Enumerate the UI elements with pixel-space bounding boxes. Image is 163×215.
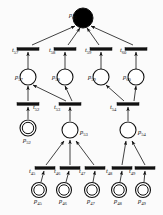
arc-p48-to-t48 — [120, 171, 122, 182]
transition-label-t52: t52 — [33, 104, 39, 113]
transition-label-t53: t53 — [54, 104, 60, 113]
place-inner-circle — [114, 185, 124, 195]
place-inner-circle — [22, 122, 33, 133]
transition-label-index: 45 — [31, 171, 36, 176]
arc-t54-to-p60 — [134, 86, 136, 101]
arc-t59-to-p62 — [87, 28, 99, 45]
place-inner-circle — [59, 185, 69, 195]
place-p45[interactable] — [32, 183, 47, 198]
transition-label-t54: t54 — [110, 104, 116, 113]
arc-p45-to-t45 — [41, 171, 44, 182]
place-label-p46: p46 — [59, 198, 67, 207]
place-p52[interactable] — [20, 120, 36, 136]
place-label-p47: p47 — [87, 198, 95, 207]
arc-t53-to-p58 — [65, 86, 72, 101]
arc-t49-to-p54 — [132, 141, 145, 165]
arc-p49-to-t49 — [144, 171, 145, 182]
transition-t46[interactable] — [60, 167, 80, 170]
place-label-index: 59 — [91, 77, 96, 82]
transition-t57[interactable] — [17, 48, 39, 51]
transition-label-index: 52 — [35, 107, 40, 112]
place-p49[interactable] — [136, 183, 151, 198]
place-inner-circle — [138, 185, 148, 195]
transition-label-t57: t57 — [12, 47, 18, 56]
transition-label-index: 53 — [56, 107, 61, 112]
arc-p47-to-t47 — [93, 171, 95, 182]
place-label-p48: p48 — [114, 198, 122, 207]
place-outer-circle — [62, 122, 78, 138]
place-inner-circle — [87, 185, 97, 195]
transition-label-index: 57 — [14, 50, 19, 55]
place-label-p54: p54 — [138, 129, 146, 138]
transition-t54[interactable] — [117, 103, 139, 106]
place-label-p45: p45 — [34, 198, 42, 207]
place-p53[interactable] — [62, 122, 78, 138]
transition-label-t47: t47 — [79, 168, 85, 177]
transition-label-t45: t45 — [29, 168, 35, 177]
place-label-p52: p52 — [23, 137, 31, 146]
place-p48[interactable] — [112, 183, 127, 198]
transition-t58[interactable] — [54, 48, 76, 51]
place-p46[interactable] — [57, 183, 72, 198]
arc-t47-to-p53 — [76, 141, 94, 165]
petri-net-diagram: p62p57p58p59p60p52p53p54p45p46p47p48p49t… — [0, 0, 163, 215]
transition-label-index: 59 — [87, 50, 92, 55]
transition-label-index: 60 — [122, 50, 127, 55]
transition-t49[interactable] — [135, 167, 155, 170]
place-label-p60: p60 — [123, 74, 131, 83]
place-label-index: 57 — [18, 77, 23, 82]
place-label-p59: p59 — [88, 74, 96, 83]
arc-t53-to-p57 — [33, 85, 66, 101]
transition-label-t60: t60 — [120, 47, 126, 56]
transition-label-t46: t46 — [54, 168, 60, 177]
place-label-p53: p53 — [80, 129, 88, 138]
place-outer-circle — [120, 122, 136, 138]
transition-t45[interactable] — [35, 167, 55, 170]
transition-t47[interactable] — [85, 167, 105, 170]
arc-p46-to-t46 — [66, 171, 69, 182]
transition-label-t58: t58 — [49, 47, 55, 56]
transition-t59[interactable] — [90, 48, 112, 51]
transition-label-index: 49 — [131, 171, 136, 176]
place-label-p62: p62 — [69, 12, 77, 21]
place-label-p57: p57 — [15, 74, 23, 83]
transition-label-index: 47 — [81, 171, 86, 176]
place-p54[interactable] — [120, 122, 136, 138]
place-label-index: 47 — [90, 201, 95, 206]
transition-label-index: 46 — [56, 171, 61, 176]
place-label-index: 52 — [26, 140, 31, 145]
place-label-index: 46 — [62, 201, 67, 206]
place-p47[interactable] — [85, 183, 100, 198]
transition-label-index: 54 — [112, 107, 117, 112]
place-label-index: 62 — [72, 15, 77, 20]
place-label-p58: p58 — [52, 74, 60, 83]
arc-t58-to-p62 — [68, 28, 80, 45]
transition-label-t59: t59 — [85, 47, 91, 56]
place-label-p49: p49 — [138, 198, 146, 207]
transition-label-t48: t48 — [106, 168, 112, 177]
transition-label-index: 48 — [108, 171, 113, 176]
arc-t45-to-p53 — [46, 141, 64, 165]
place-label-index: 54 — [141, 132, 146, 137]
transition-t53[interactable] — [59, 103, 81, 106]
place-label-index: 45 — [37, 201, 42, 206]
place-label-index: 48 — [117, 201, 122, 206]
petri-net-canvas — [0, 0, 163, 215]
place-label-index: 53 — [83, 132, 88, 137]
place-inner-circle — [34, 185, 44, 195]
place-label-index: 49 — [141, 201, 146, 206]
transition-label-t49: t49 — [129, 168, 135, 177]
arc-t48-to-p54 — [122, 141, 126, 165]
arc-t57-to-p62 — [32, 26, 75, 45]
place-label-index: 58 — [55, 77, 60, 82]
transition-t60[interactable] — [125, 48, 147, 51]
transition-label-index: 58 — [51, 50, 56, 55]
arc-t54-to-p59 — [106, 85, 124, 101]
place-label-index: 60 — [126, 77, 131, 82]
